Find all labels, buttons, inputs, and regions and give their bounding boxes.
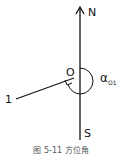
label-north: N	[88, 6, 96, 19]
label-south: S	[84, 127, 91, 140]
label-point-1: 1	[5, 93, 12, 106]
figure-caption: 图 5-11 方位角	[0, 146, 122, 155]
label-origin: O	[66, 66, 75, 79]
azimuth-diagram: N S O 1 α O1	[0, 0, 122, 155]
label-alpha-subscript: O1	[108, 79, 117, 86]
label-alpha: α	[100, 71, 108, 85]
